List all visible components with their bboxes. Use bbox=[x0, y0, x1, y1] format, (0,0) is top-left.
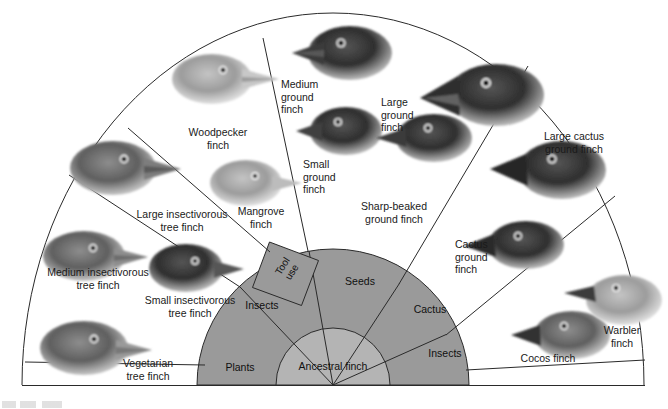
diet-label-insects-left: Insects bbox=[222, 299, 302, 312]
diet-label-seeds: Seeds bbox=[320, 275, 400, 288]
page-caption-fragment bbox=[2, 401, 62, 408]
diet-label-cactus: Cactus bbox=[390, 303, 470, 316]
diet-label-plants: Plants bbox=[200, 361, 280, 374]
diet-label-insects-right: Insects bbox=[405, 347, 485, 360]
ancestral-finch-label: Ancestral finch bbox=[283, 360, 383, 373]
